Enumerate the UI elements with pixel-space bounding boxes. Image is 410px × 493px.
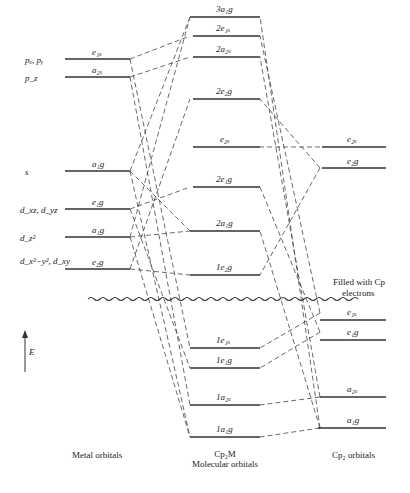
sym-label: e₂ᵤ	[220, 134, 230, 144]
caption-ligand: Cp₂ orbitals	[332, 450, 375, 460]
energy-label: E	[28, 347, 35, 357]
sym-label: e₁g	[92, 197, 104, 207]
sym-label: 3a₁g	[215, 4, 233, 14]
orbital-name: d_z²	[20, 233, 36, 243]
arrowhead-icon	[22, 330, 28, 338]
mo-diagram: e₁ᵤ a₂ᵤ a₁g e₁g a₁g e₂g pₓ, pᵧ p_z s d_x…	[0, 0, 410, 493]
sym-label: a₁g	[92, 225, 105, 235]
sym-label: 2e₁g	[216, 174, 233, 184]
filled-note-line1: Filled with Cp	[333, 277, 386, 287]
sym-label: a₂ᵤ	[347, 384, 358, 394]
sym-label: 1a₂ᵤ	[216, 392, 231, 402]
sym-label: 1e₁ᵤ	[216, 335, 231, 345]
metal-orbital-levels: e₁ᵤ a₂ᵤ a₁g e₁g a₁g e₂g pₓ, pᵧ p_z s d_x…	[20, 47, 130, 269]
caption-mo-line1: Cp₂M	[214, 449, 236, 459]
sym-label: 1e₂g	[216, 262, 233, 272]
orbital-name: p_z	[24, 73, 38, 83]
sym-label: a₂ᵤ	[92, 65, 103, 75]
sym-label: e₁g	[347, 327, 359, 337]
molecular-orbital-levels: 3a₁g 2e₁ᵤ 2a₂ᵤ 2e₂g e₂ᵤ 2e₁g 2a₁g 1e₂g 1…	[190, 4, 260, 437]
sym-label: 2e₁ᵤ	[216, 23, 231, 33]
caption-mo-line2: Molecular orbitals	[192, 459, 259, 469]
sym-label: e₂g	[92, 257, 104, 267]
energy-axis: E	[22, 330, 35, 372]
sym-label: 2a₁g	[216, 218, 233, 228]
sym-label: e₁ᵤ	[347, 307, 357, 317]
sym-label: e₂g	[347, 156, 359, 166]
sym-label: 2e₂g	[216, 86, 233, 96]
filled-note-line2: electrons	[342, 288, 375, 298]
filled-divider-wave	[88, 298, 358, 301]
orbital-name: d_x²−y², d_xy	[20, 256, 70, 266]
sym-label: 1e₁g	[216, 355, 233, 365]
sym-label: a₁g	[347, 415, 360, 425]
orbital-name: s	[25, 167, 29, 177]
sym-label: a₁g	[92, 159, 105, 169]
orbital-name: pₓ, pᵧ	[24, 55, 43, 65]
sym-label: e₂ᵤ	[347, 134, 357, 144]
caption-metal: Metal orbitals	[72, 450, 123, 460]
sym-label: 2a₂ᵤ	[216, 44, 231, 54]
sym-label: 1a₁g	[216, 424, 233, 434]
orbital-name: d_xz, d_yz	[20, 205, 58, 215]
sym-label: e₁ᵤ	[92, 47, 102, 57]
